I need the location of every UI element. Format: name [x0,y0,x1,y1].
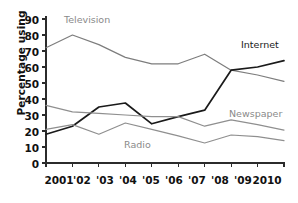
line-chart: Percentage using 90 80 70 60 50 40 30 20… [0,0,298,203]
series-line-television [46,35,284,81]
axis-ticks [42,19,284,167]
series-line-radio [46,123,284,143]
series-line-newspaper [46,105,284,130]
plot-area [0,0,298,203]
series-lines [46,35,284,143]
